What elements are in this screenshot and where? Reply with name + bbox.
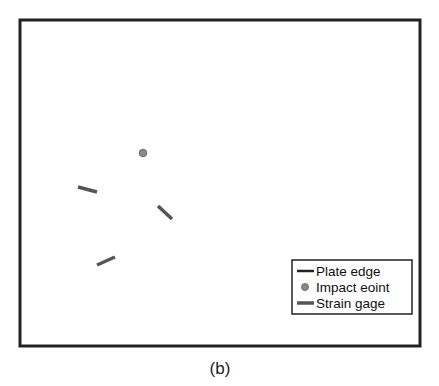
legend-impact-point-icon	[302, 284, 309, 291]
strain-gage-1	[78, 187, 97, 192]
legend-label-strain-gage: Strain gage	[316, 296, 385, 311]
legend: Plate edge Impact eoint Strain gage	[292, 260, 412, 314]
figure: Plate edge Impact eoint Strain gage (b)	[0, 0, 439, 386]
figure-caption: (b)	[210, 359, 231, 378]
strain-gages	[78, 187, 172, 265]
legend-label-impact-point: Impact eoint	[316, 280, 390, 295]
strain-gage-2	[158, 206, 172, 219]
strain-gage-3	[97, 257, 115, 265]
legend-label-plate-edge: Plate edge	[316, 264, 381, 279]
impact-point	[139, 149, 147, 157]
